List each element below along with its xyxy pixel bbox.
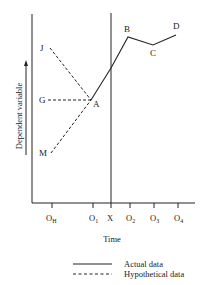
tick-label-o3: O3	[150, 213, 159, 224]
point-label-m: M	[39, 148, 47, 158]
point-label-a: A	[93, 99, 100, 109]
tick-label-x: X	[107, 213, 113, 223]
point-label-d: D	[173, 21, 180, 31]
point-label-g: G	[39, 95, 46, 105]
tick-label-oh: OH	[46, 213, 57, 224]
legend-hypothetical-label: Hypothetical data	[124, 269, 184, 279]
point-label-j: J	[40, 43, 44, 53]
point-label-c: C	[150, 48, 156, 58]
tick-label-o2: O2	[126, 213, 135, 224]
hypothetical-line-ma	[51, 100, 91, 153]
x-axis-title: Time	[103, 234, 121, 244]
y-axis-title: Dependent variable	[14, 83, 24, 150]
diagram-canvas: OH O1 X O2 O3 O4 Time Dependent variable…	[0, 0, 208, 285]
point-label-b: B	[124, 24, 130, 34]
hypothetical-line-ja	[50, 48, 91, 100]
legend-actual-label: Actual data	[124, 259, 163, 269]
tick-label-o4: O4	[174, 213, 183, 224]
y-axis-arrow-head	[24, 60, 28, 66]
actual-line	[91, 35, 176, 100]
tick-label-o1: O1	[89, 213, 98, 224]
